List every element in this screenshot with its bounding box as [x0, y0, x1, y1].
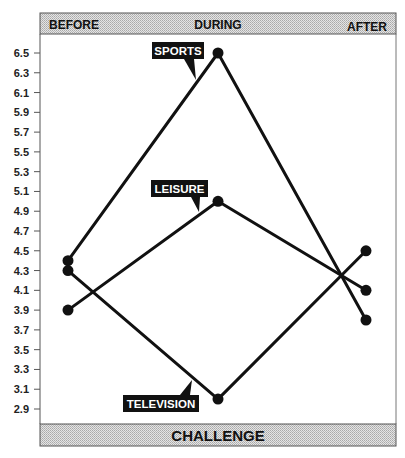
y-tick-label: 3.7 [14, 324, 29, 336]
y-tick-label: 6.3 [14, 67, 29, 79]
y-tick-label: 3.3 [14, 363, 29, 375]
callout-television: TELEVISION [123, 380, 199, 412]
y-tick-label: 2.9 [14, 403, 29, 415]
y-tick-label: 4.9 [14, 205, 29, 217]
y-tick-label: 3.5 [14, 344, 29, 356]
data-point-leisure [63, 305, 74, 316]
callout-sports-label: SPORTS [154, 45, 202, 57]
series-line-television [68, 251, 366, 399]
y-tick-label: 5.1 [14, 185, 29, 197]
header-band: BEFORE DURING AFTER [40, 13, 396, 34]
footer-band: CHALLENGE [40, 424, 396, 446]
y-tick-label: 5.7 [14, 126, 29, 138]
callout-television-label: TELEVISION [127, 398, 195, 410]
data-point-television [63, 265, 74, 276]
data-point-sports [361, 315, 372, 326]
line-chart: BEFORE DURING AFTER 6.56.36.15.95.75.55.… [0, 0, 405, 458]
header-label-before: BEFORE [49, 18, 99, 32]
callout-leisure: LEISURE [151, 180, 208, 212]
y-axis-ticks: 6.56.36.15.95.75.55.35.14.94.74.54.34.13… [14, 47, 40, 415]
header-label-during: DURING [194, 18, 241, 32]
y-tick-label: 4.5 [14, 245, 29, 257]
y-tick-label: 3.9 [14, 304, 29, 316]
y-tick-label: 4.3 [14, 265, 29, 277]
y-tick-label: 6.5 [14, 47, 29, 59]
callout-sports: SPORTS [152, 42, 204, 80]
y-tick-label: 5.9 [14, 106, 29, 118]
data-point-sports [63, 255, 74, 266]
series-line-sports [68, 53, 366, 320]
data-point-leisure [361, 285, 372, 296]
y-tick-label: 4.7 [14, 225, 29, 237]
data-point-sports [213, 48, 224, 59]
header-label-after: AFTER [347, 20, 387, 34]
y-tick-label: 5.5 [14, 146, 29, 158]
y-tick-label: 6.1 [14, 87, 29, 99]
x-axis-title: CHALLENGE [171, 427, 264, 444]
data-point-leisure [213, 196, 224, 207]
callout-leisure-label: LEISURE [155, 183, 205, 195]
series-group [63, 48, 372, 405]
data-point-television [361, 245, 372, 256]
y-tick-label: 5.3 [14, 166, 29, 178]
y-tick-label: 4.1 [14, 284, 29, 296]
y-tick-label: 3.1 [14, 383, 29, 395]
data-point-television [213, 394, 224, 405]
